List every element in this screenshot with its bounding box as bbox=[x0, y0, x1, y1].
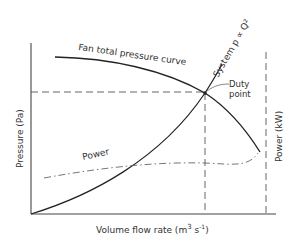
fan-pressure-curve bbox=[55, 57, 260, 152]
x-axis-label: Volume flow rate (m3 s-1) bbox=[96, 223, 209, 235]
fan-system-diagram: Fan total pressure curve System p ∝ Q² D… bbox=[0, 0, 299, 249]
duty-point-label-line1: Duty bbox=[229, 79, 249, 89]
duty-point-marker bbox=[203, 91, 207, 95]
y-axis-left-label: Pressure (Pa) bbox=[15, 109, 25, 168]
system-curve-label: System p ∝ Q² bbox=[211, 17, 252, 79]
duty-point-label-line2: point bbox=[229, 89, 251, 99]
y-axis-right-label: Power (kW) bbox=[274, 111, 284, 162]
power-curve bbox=[44, 153, 258, 178]
power-curve-label: Power bbox=[81, 146, 110, 162]
fan-curve-label: Fan total pressure curve bbox=[78, 42, 188, 67]
